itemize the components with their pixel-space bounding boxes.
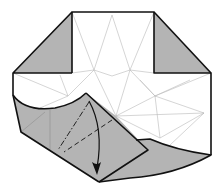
diagram-canvas	[0, 0, 224, 196]
origami-diagram	[0, 0, 224, 196]
